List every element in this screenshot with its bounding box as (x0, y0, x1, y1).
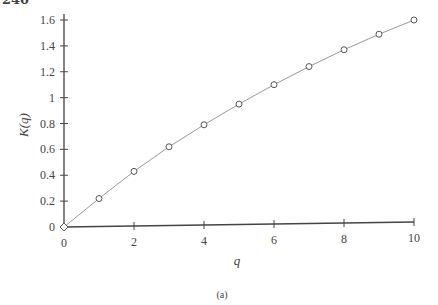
x-axis-label: q (234, 253, 241, 268)
kq-line-chart: 00.20.40.60.811.21.41.60246810 q K(q) (a… (0, 0, 438, 305)
data-point-marker (411, 17, 417, 23)
y-tick-label: 1.6 (40, 13, 55, 27)
data-point-marker (166, 144, 172, 150)
plot-area (60, 17, 417, 231)
y-tick-label: 1 (49, 91, 55, 105)
y-axis-label: K(q) (16, 113, 31, 138)
data-point-marker (271, 82, 277, 88)
x-axis-line (64, 222, 414, 227)
figure-caption: (a) (216, 289, 227, 301)
y-tick-label: 1.2 (40, 65, 55, 79)
data-point-marker (131, 168, 137, 174)
data-point-marker (306, 64, 312, 70)
x-tick-label: 6 (271, 233, 277, 247)
x-tick-label: 0 (61, 236, 67, 250)
y-tick-label: 0.2 (40, 194, 55, 208)
data-point-marker (236, 101, 242, 107)
data-point-marker (376, 31, 382, 37)
axes: 00.20.40.60.811.21.41.60246810 (40, 13, 420, 250)
x-tick-label: 4 (201, 234, 207, 248)
x-tick-label: 8 (341, 232, 347, 246)
data-point-marker (96, 196, 102, 202)
data-point-marker (341, 47, 347, 53)
x-tick-label: 2 (131, 235, 137, 249)
y-tick-label: 0 (49, 220, 55, 234)
y-tick-label: 1.4 (40, 39, 55, 53)
y-tick-label: 0.8 (40, 117, 55, 131)
data-point-marker (201, 122, 207, 128)
x-tick-label: 10 (408, 231, 420, 245)
series-line (64, 20, 414, 227)
y-tick-label: 0.4 (40, 168, 55, 182)
y-tick-label: 0.6 (40, 142, 55, 156)
